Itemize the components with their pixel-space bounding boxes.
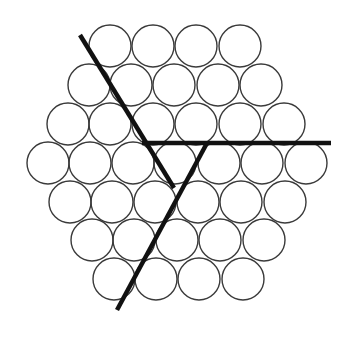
- circle-r2-c3: [153, 64, 195, 106]
- circle-r2-c5: [240, 64, 282, 106]
- circle-r3-c6: [263, 103, 305, 145]
- boundary-lines-layer: [80, 35, 331, 310]
- circle-r5-c2: [91, 181, 133, 223]
- circle-r7-c3: [178, 258, 220, 300]
- circle-r6-c5: [243, 219, 285, 261]
- circle-r6-c4: [199, 219, 241, 261]
- circle-r5-c1: [49, 181, 91, 223]
- circle-r7-c4: [222, 258, 264, 300]
- circle-r7-c1: [93, 258, 135, 300]
- circle-r2-c4: [197, 64, 239, 106]
- circle-r4-c1: [27, 142, 69, 184]
- hexagonal-circle-packing-diagram: [0, 0, 349, 337]
- circles-layer: [27, 25, 327, 300]
- circle-r1-c2: [132, 25, 174, 67]
- circle-r4-c7: [285, 142, 327, 184]
- circle-r5-c6: [264, 181, 306, 223]
- circle-r2-c2: [110, 64, 152, 106]
- circle-r6-c1: [71, 219, 113, 261]
- circle-r1-c4: [219, 25, 261, 67]
- circle-r3-c5: [219, 103, 261, 145]
- circle-r5-c5: [220, 181, 262, 223]
- circle-r3-c4: [175, 103, 217, 145]
- circle-r4-c6: [241, 142, 283, 184]
- circle-r1-c3: [175, 25, 217, 67]
- circle-r3-c3: [132, 103, 174, 145]
- circle-r4-c2: [69, 142, 111, 184]
- circle-r3-c1: [47, 103, 89, 145]
